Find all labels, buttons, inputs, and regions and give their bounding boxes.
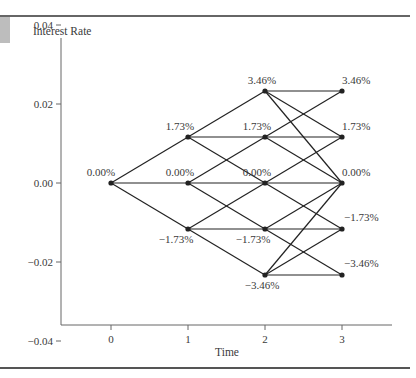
- corner-shade-block: [0, 17, 10, 43]
- y-ticks: 0.040.020.00−0.02−0.04: [28, 19, 61, 347]
- node-rate-label: −1.73%: [236, 233, 271, 245]
- node-rate-label: 0.00%: [243, 166, 271, 178]
- x-tick-label: 3: [339, 333, 345, 345]
- node-rate-label: 3.46%: [248, 74, 276, 86]
- node-rate-label: 3.46%: [342, 74, 370, 86]
- tree-node: [262, 88, 267, 93]
- tree-node: [339, 88, 344, 93]
- tree-node: [262, 134, 267, 139]
- tree-edge: [111, 183, 188, 229]
- y-tick-label: −0.04: [28, 335, 54, 347]
- x-ticks: 0123: [108, 325, 345, 345]
- tree-node: [339, 180, 344, 185]
- node-rate-label: −3.46%: [344, 257, 379, 269]
- tree-node: [262, 272, 267, 277]
- tree-node: [339, 226, 344, 231]
- node-rate-label: 0.00%: [342, 166, 370, 178]
- node-rate-label: −1.73%: [344, 211, 379, 223]
- node-rate-label: 1.73%: [166, 120, 194, 132]
- tree-node: [339, 134, 344, 139]
- node-rate-label: 0.00%: [87, 166, 115, 178]
- node-rate-label: −3.46%: [245, 279, 280, 291]
- node-rate-label: 0.00%: [166, 166, 194, 178]
- x-tick-label: 2: [262, 333, 268, 345]
- tree-edges: [111, 91, 342, 275]
- tree-node: [262, 180, 267, 185]
- node-rate-label: −1.73%: [159, 233, 194, 245]
- node-rate-label: 1.73%: [243, 120, 271, 132]
- y-tick-label: 0.00: [34, 177, 54, 189]
- tree-node: [339, 272, 344, 277]
- y-tick-label: −0.02: [28, 256, 53, 268]
- tree-node: [185, 134, 190, 139]
- tree-node: [185, 180, 190, 185]
- x-axis-label: Time: [215, 346, 239, 358]
- interest-rate-tree-chart: Interest Rate Time 0.040.020.00−0.02−0.0…: [0, 0, 416, 378]
- tree-node: [185, 226, 190, 231]
- y-tick-label: 0.02: [34, 98, 53, 110]
- x-tick-label: 0: [108, 333, 114, 345]
- tree-node: [108, 180, 113, 185]
- y-tick-label: 0.04: [34, 19, 54, 31]
- x-tick-label: 1: [185, 333, 191, 345]
- node-rate-label: 1.73%: [342, 120, 370, 132]
- tree-node: [262, 226, 267, 231]
